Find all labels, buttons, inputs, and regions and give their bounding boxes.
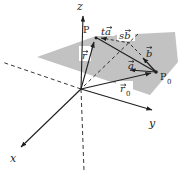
label-z-axis: z	[76, 0, 83, 13]
point-p-dot	[95, 37, 98, 40]
figure-plane-vector-equation: z x y P P 0 r r 0 a b ta sb	[0, 0, 178, 175]
label-x-axis: x	[10, 152, 17, 165]
neg-z-axis-dashed	[81, 89, 84, 171]
label-point-p0: P	[160, 71, 167, 82]
point-p0-dot	[154, 70, 158, 74]
label-point-p: P	[83, 24, 90, 35]
label-vector-b: b	[146, 48, 152, 59]
label-point-p0-subscript: 0	[167, 78, 171, 86]
x-axis	[21, 89, 81, 147]
label-y-axis: y	[148, 117, 156, 130]
label-vector-sb: sb	[119, 30, 131, 41]
diagram-canvas: z x y P P 0 r r 0 a b ta sb	[0, 0, 178, 175]
label-vector-r0-subscript: 0	[126, 90, 130, 98]
